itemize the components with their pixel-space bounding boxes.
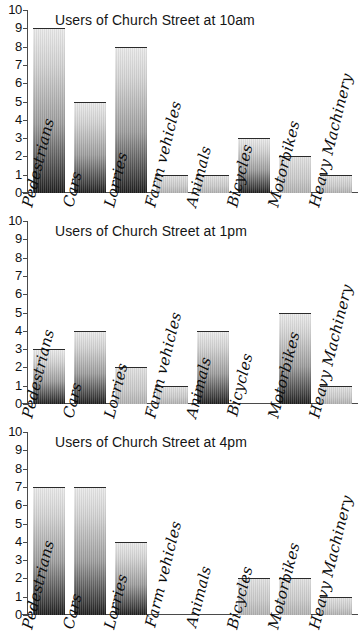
y-axis-tick-label: 7 [0,482,22,492]
bar-chart-panel: 012345678910Users of Church Street at 10… [0,0,360,211]
plot-area: PedestriansCarsLorriesFarm vehiclesAnima… [28,432,357,615]
y-axis-tick-label: 7 [0,271,22,281]
y-axis-tick-label: 3 [0,555,22,565]
y-axis-tick-label: 4 [0,326,22,336]
y-axis-tick-label: 0 [0,610,22,620]
y-axis-tick-label: 5 [0,519,22,529]
y-axis-tick-label: 1 [0,592,22,602]
bar-group [74,10,106,193]
y-axis: 012345678910 [0,221,22,403]
y-axis-tick-label: 0 [0,188,22,198]
y-axis: 012345678910 [0,432,22,614]
y-axis-tick-label: 4 [0,115,22,125]
y-axis-tick-label: 8 [0,464,22,474]
y-axis-tick-label: 2 [0,151,22,161]
y-axis-tick-label: 2 [0,573,22,583]
y-axis-tick-label: 5 [0,308,22,318]
y-axis-tick-label: 10 [0,427,22,437]
y-axis-tick-label: 3 [0,133,22,143]
y-axis-tick-label: 10 [0,5,22,15]
y-axis-tick-label: 5 [0,97,22,107]
y-axis-tick-label: 7 [0,60,22,70]
y-axis-tick-label: 8 [0,42,22,52]
y-axis-tick-label: 6 [0,78,22,88]
y-axis-tick-label: 1 [0,170,22,180]
chart-stack: 012345678910Users of Church Street at 10… [0,0,360,634]
plot-area: PedestriansCarsLorriesFarm vehiclesAnima… [28,10,357,193]
y-axis-tick-label: 1 [0,381,22,391]
y-axis-tick-label: 6 [0,500,22,510]
y-axis: 012345678910 [0,10,22,192]
y-axis-tick-label: 3 [0,344,22,354]
y-axis-tick-label: 6 [0,289,22,299]
y-axis-tick-label: 9 [0,445,22,455]
y-axis-tick-label: 2 [0,362,22,372]
bar-group [74,432,106,615]
bar-group [74,221,106,404]
y-axis-tick-label: 10 [0,216,22,226]
bar-chart-panel: 012345678910Users of Church Street at 4p… [0,422,360,633]
plot-area: PedestriansCarsLorriesFarm vehiclesAnima… [28,221,357,404]
y-axis-tick-label: 0 [0,399,22,409]
y-axis-tick-label: 8 [0,253,22,263]
y-axis-tick-label: 9 [0,234,22,244]
y-axis-tick-label: 4 [0,537,22,547]
bar-chart-panel: 012345678910Users of Church Street at 1p… [0,211,360,422]
y-axis-tick-label: 9 [0,23,22,33]
